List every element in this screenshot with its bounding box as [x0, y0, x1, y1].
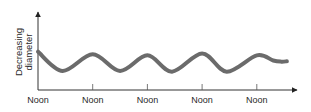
series-group	[38, 52, 287, 72]
series-line-diameter	[38, 52, 287, 72]
x-tick-label: Noon	[246, 95, 268, 105]
x-ticks	[93, 84, 257, 90]
diameter-chart: NoonNoonNoonNoonNoon Decreasing diameter	[0, 0, 311, 112]
x-tick-labels: NoonNoonNoonNoonNoon	[27, 95, 267, 105]
x-tick-label: Noon	[27, 95, 49, 105]
x-tick-label: Noon	[191, 95, 213, 105]
x-tick-label: Noon	[82, 95, 104, 105]
x-tick-label: Noon	[137, 95, 159, 105]
y-axis-label-line-2: diameter	[23, 34, 34, 71]
